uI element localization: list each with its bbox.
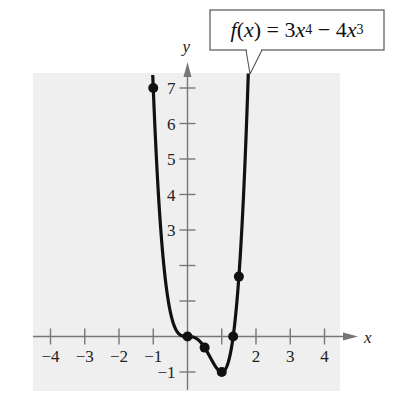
function-label: f(x) = 3x4 − 4x3	[212, 12, 382, 48]
y-tick-label: 7	[167, 79, 176, 98]
data-point	[234, 272, 244, 282]
x-tick-label: 4	[320, 347, 329, 366]
y-axis-arrow-icon	[184, 62, 192, 77]
x-tick-label: 2	[252, 347, 261, 366]
y-tick-label: 3	[167, 221, 176, 240]
x-tick-label: 3	[286, 347, 295, 366]
y-tick-label: 6	[167, 115, 176, 134]
function-var: x	[244, 17, 254, 43]
x-tick-label: −3	[76, 347, 94, 366]
term-1-var: x	[296, 17, 306, 43]
y-tick-label: 4	[167, 186, 176, 205]
coef-1: 3	[285, 17, 296, 43]
term-2-var: x	[347, 17, 357, 43]
data-point	[228, 332, 238, 342]
function-name: f	[231, 17, 237, 43]
x-tick-label: −4	[41, 347, 60, 366]
function-graph: xy −4−3−2−1234−134567	[0, 0, 396, 406]
x-axis-arrow-icon	[343, 333, 358, 341]
y-tick-label: 5	[167, 150, 176, 169]
data-point	[200, 343, 210, 353]
data-point	[183, 332, 193, 342]
y-tick-label: −1	[157, 363, 175, 382]
coef-2: 4	[336, 17, 347, 43]
y-axis-label: y	[181, 37, 191, 56]
operator: −	[318, 17, 330, 43]
data-point	[148, 83, 158, 93]
x-tick-label: −2	[110, 347, 128, 366]
data-point	[217, 367, 227, 377]
plot-background	[33, 73, 340, 391]
x-axis-label: x	[363, 328, 372, 347]
